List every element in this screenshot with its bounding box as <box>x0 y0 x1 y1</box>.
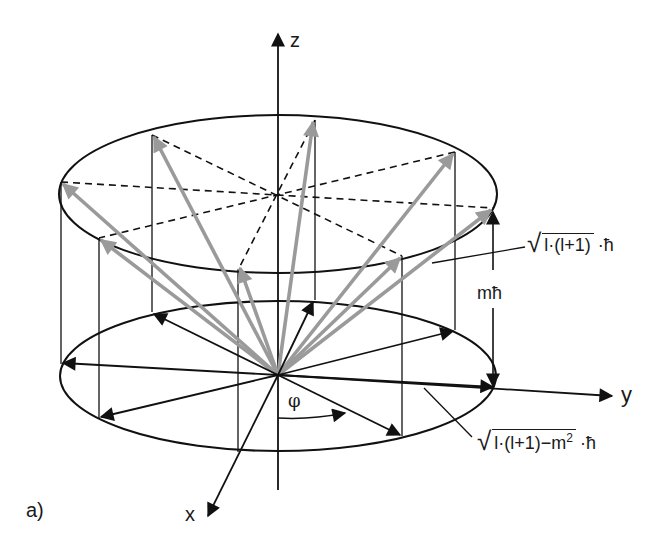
exponent: 2 <box>566 431 573 445</box>
sqrt-icon: √ <box>477 428 491 454</box>
radius-formula: √ l·(l+1)−m2 ·ħ <box>477 428 596 454</box>
total-momentum-formula: √ l·(l+1) ·ħ <box>527 230 614 256</box>
y-axis <box>278 375 612 396</box>
formula-radicand: l·(l+1) <box>542 233 594 256</box>
projection-lines <box>61 120 455 452</box>
formula-tail: ·ħ <box>576 434 596 454</box>
formula-radicand: l·(l+1)−m2 <box>492 429 576 454</box>
top-dashed-diameters <box>61 120 493 270</box>
x-axis <box>208 375 278 516</box>
formula-tail: ·ħ <box>594 236 614 256</box>
angular-momentum-cone-diagram <box>0 0 669 551</box>
z-axis-label: z <box>290 30 300 50</box>
phi-label: φ <box>288 392 301 410</box>
m-hbar-label: mħ <box>477 284 502 302</box>
y-axis-label: y <box>621 384 632 406</box>
x-axis-label: x <box>185 504 195 524</box>
radicand-text: l·(l+1)−m <box>494 433 566 453</box>
phi-angle-arc <box>278 413 345 418</box>
sqrt-icon: √ <box>527 230 541 256</box>
panel-label: a) <box>26 500 44 520</box>
